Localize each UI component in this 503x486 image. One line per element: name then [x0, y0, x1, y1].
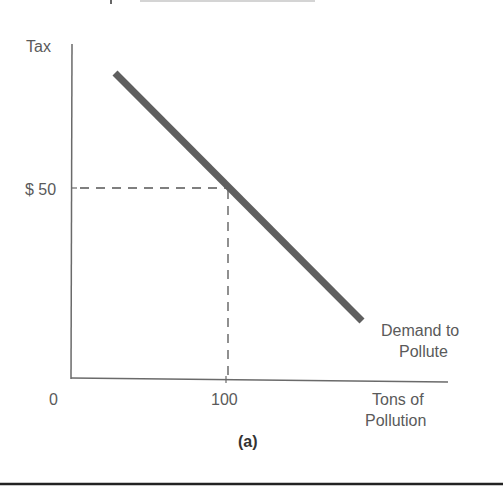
curve-label-line1: Demand to [381, 322, 459, 339]
demand-to-pollute-curve [115, 73, 362, 321]
top-text-fragment-strip [140, 0, 315, 2]
x-tick-label-100: 100 [211, 391, 238, 408]
y-axis [71, 44, 72, 379]
x-axis-label-line1: Tons of [372, 391, 424, 408]
y-axis-label: Tax [26, 38, 51, 55]
curve-label-line2: Pollute [399, 343, 448, 360]
x-axis [71, 378, 448, 382]
y-tick-label-50: $ 50 [25, 181, 56, 198]
x-axis-label-line2: Pollution [365, 412, 426, 429]
x-tick-label-0: 0 [49, 391, 58, 408]
demand-to-pollute-chart: Tax $ 50 0 100 Tons of Pollution Demand … [0, 0, 503, 486]
top-text-fragment [110, 0, 112, 4]
panel-label: (a) [238, 433, 258, 450]
